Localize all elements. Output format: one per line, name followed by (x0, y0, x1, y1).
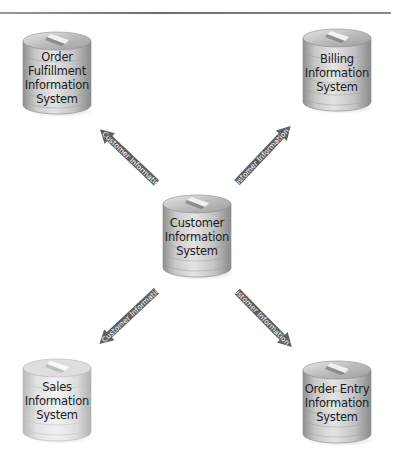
node-label-line: Information (301, 66, 373, 80)
node-label-line: System (301, 80, 373, 94)
node-label-line: Sales (21, 380, 93, 394)
arrow-to-sales: Customer Information (94, 280, 167, 349)
node-label-line: Information (301, 396, 373, 410)
node-label-line: System (161, 244, 233, 258)
arrow-to-order-entry: Customer Information (227, 281, 298, 352)
node-label-line: System (21, 92, 93, 106)
edge-label: Customer Information (100, 129, 165, 191)
arrow-to-order-fulfillment: Customer Information (95, 124, 167, 194)
node-label-line: Information (21, 78, 93, 92)
node-label-line: Order (21, 50, 93, 64)
node-label-line: Billing (301, 52, 373, 66)
node-order-entry: Order Entry Information System (301, 357, 373, 445)
node-customer-hub: Customer Information System (161, 192, 233, 280)
node-order-fulfillment: Order Fulfillment Information System (21, 28, 93, 116)
node-label-line: Fulfillment (21, 64, 93, 78)
node-label-line: Customer (161, 216, 233, 230)
edge-label: Customer Information (100, 283, 165, 345)
node-sales: Sales Information System (21, 356, 93, 444)
node-label-line: Information (161, 230, 233, 244)
node-label-line: System (21, 408, 93, 422)
arrow-to-billing: Customer Information (226, 121, 296, 193)
node-label-line: Information (21, 394, 93, 408)
edge-label: Customer Information (229, 283, 292, 347)
edge-label: Customer Information (229, 126, 291, 191)
node-label-line: Order Entry (301, 382, 373, 396)
node-label-line: System (301, 410, 373, 424)
node-billing: Billing Information System (301, 26, 373, 114)
